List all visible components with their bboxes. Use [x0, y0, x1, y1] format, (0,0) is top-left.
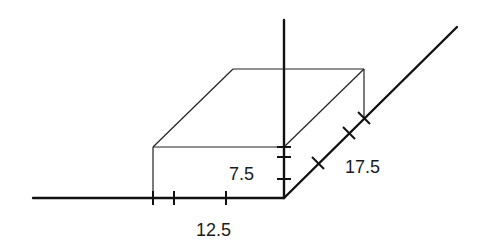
box: [153, 69, 364, 198]
depth-label: 17.5: [345, 157, 380, 177]
box-top-left-edge: [153, 69, 233, 147]
height-label: 7.5: [229, 164, 254, 184]
box-diagram: 12.5 7.5 17.5: [0, 0, 483, 245]
width-label: 12.5: [196, 220, 231, 240]
